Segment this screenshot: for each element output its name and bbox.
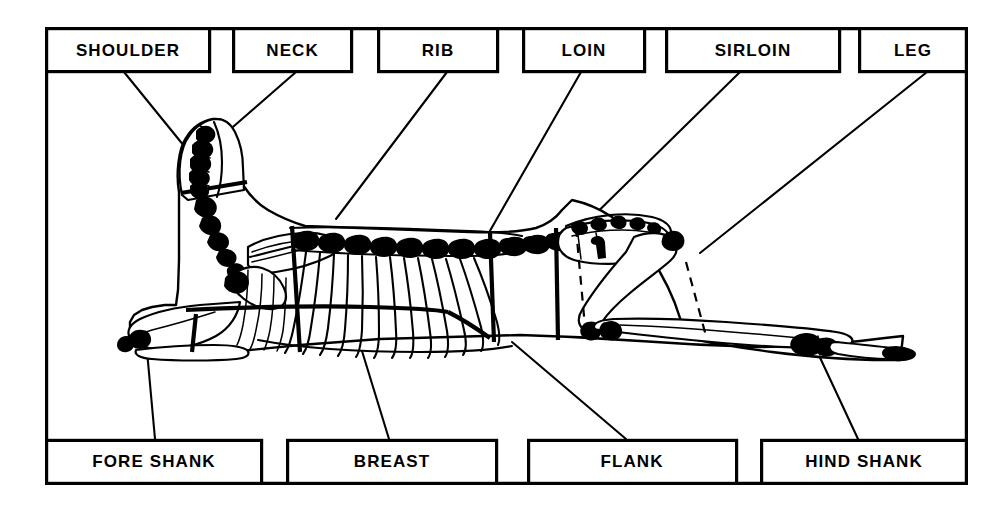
cut-label-shoulder: SHOULDER bbox=[76, 41, 180, 60]
cut-box-breast[interactable]: BREAST bbox=[288, 440, 497, 483]
cut-label-hind-shank: HIND SHANK bbox=[805, 452, 923, 471]
cut-label-loin: LOIN bbox=[561, 41, 606, 60]
cut-box-shoulder[interactable]: SHOULDER bbox=[47, 29, 210, 72]
cut-box-leg[interactable]: LEG bbox=[860, 29, 967, 72]
cut-box-fore-shank[interactable]: FORE SHANK bbox=[47, 440, 262, 483]
cut-box-loin[interactable]: LOIN bbox=[524, 29, 645, 72]
cut-label-neck: NECK bbox=[266, 41, 319, 60]
cut-label-breast: BREAST bbox=[354, 452, 431, 471]
cut-label-fore-shank: FORE SHANK bbox=[92, 452, 215, 471]
cut-box-sirloin[interactable]: SIRLOIN bbox=[667, 29, 840, 72]
cut-label-rib: RIB bbox=[422, 41, 455, 60]
cut-label-sirloin: SIRLOIN bbox=[715, 41, 792, 60]
lamb-cuts-diagram: SHOULDER NECK RIB LOIN SIRLOIN LEG FORE bbox=[0, 0, 1007, 510]
cut-box-rib[interactable]: RIB bbox=[379, 29, 498, 72]
cut-box-hind-shank[interactable]: HIND SHANK bbox=[762, 440, 967, 483]
cut-label-leg: LEG bbox=[894, 41, 932, 60]
cut-line-loin-sirloin bbox=[556, 228, 558, 340]
diagram-canvas: SHOULDER NECK RIB LOIN SIRLOIN LEG FORE bbox=[0, 0, 1007, 510]
cut-box-neck[interactable]: NECK bbox=[234, 29, 352, 72]
cut-label-flank: FLANK bbox=[600, 452, 663, 471]
cut-box-flank[interactable]: FLANK bbox=[529, 440, 737, 483]
